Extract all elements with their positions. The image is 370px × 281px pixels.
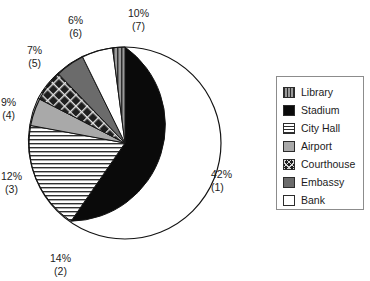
slice-percent: 6%	[68, 14, 83, 27]
legend-label: Airport	[301, 141, 332, 152]
legend-label: City Hall	[301, 123, 340, 134]
legend-item-courthouse[interactable]: Courthouse	[283, 155, 363, 173]
slice-index: (5)	[27, 57, 42, 70]
legend-label: Courthouse	[301, 159, 355, 170]
legend-label: Stadium	[301, 105, 340, 116]
slice-index: (1)	[211, 181, 232, 194]
legend-item-embassy[interactable]: Embassy	[283, 173, 363, 191]
legend-label: Bank	[301, 195, 325, 206]
slice-label-bank: 6% (6)	[68, 14, 83, 39]
legend-label: Embassy	[301, 177, 344, 188]
pie-svg	[25, 43, 225, 243]
slice-index: (7)	[128, 20, 149, 33]
legend-swatch-stadium-icon	[283, 105, 295, 116]
pie-slices	[28, 47, 165, 221]
slice-label-library: 10% (7)	[128, 7, 149, 32]
slice-index: (4)	[1, 109, 16, 122]
legend-swatch-bank-icon	[283, 195, 295, 206]
legend-item-city-hall[interactable]: City Hall	[283, 119, 363, 137]
slice-label-embassy: 7% (5)	[27, 44, 42, 69]
legend-item-stadium[interactable]: Stadium	[283, 101, 363, 119]
legend-label: Library	[301, 87, 333, 98]
legend-item-library[interactable]: Library	[283, 83, 363, 101]
legend-swatch-courthouse-icon	[283, 159, 295, 170]
slice-percent: 12%	[1, 170, 22, 183]
legend-swatch-airport-icon	[283, 141, 295, 152]
slice-percent: 42%	[211, 168, 232, 181]
slice-percent: 7%	[27, 44, 42, 57]
slice-index: (3)	[1, 183, 22, 196]
legend-swatch-city-hall-icon	[283, 123, 295, 134]
pie-chart-graphic	[25, 43, 225, 243]
slice-label-airport: 12% (3)	[1, 170, 22, 195]
chart-legend: Library Stadium City Hall Airport Courth…	[276, 76, 364, 210]
slice-label-city-hall: 14% (2)	[50, 252, 71, 277]
legend-swatch-embassy-icon	[283, 177, 295, 188]
slice-percent: 14%	[50, 252, 71, 265]
legend-item-bank[interactable]: Bank	[283, 191, 363, 209]
legend-swatch-library-icon	[283, 87, 295, 98]
slice-index: (6)	[68, 27, 83, 40]
legend-item-airport[interactable]: Airport	[283, 137, 363, 155]
slice-index: (2)	[50, 265, 71, 278]
slice-percent: 9%	[1, 96, 16, 109]
slice-label-stadium: 42% (1)	[211, 168, 232, 193]
slice-percent: 10%	[128, 7, 149, 20]
slice-label-courthouse: 9% (4)	[1, 96, 16, 121]
pie-chart-figure: 42% (1) 14% (2) 12% (3) 9% (4) 7% (5) 6%…	[0, 0, 370, 281]
